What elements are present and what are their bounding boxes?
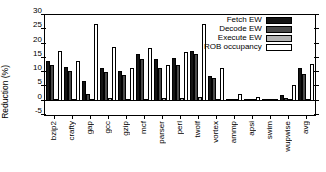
x-axis-tick-label: vortex [212, 121, 220, 143]
y-axis-tick-right [314, 28, 319, 29]
x-axis-tick-label: crafty [68, 121, 76, 141]
y-axis-title: Reduction (%) [1, 65, 10, 119]
legend-item: Decode EW [204, 25, 292, 33]
x-axis-tick [54, 115, 55, 119]
legend-item: ROB occupancy [204, 43, 292, 51]
x-axis-tick-label: swim [266, 121, 274, 139]
y-axis-tick-right [314, 100, 319, 101]
y-axis-tick-right [314, 114, 319, 115]
x-axis-tick-label: apsi [248, 121, 256, 136]
x-axis-tick-label: gcc [104, 121, 112, 133]
x-axis-tick [144, 115, 145, 119]
y-axis-tick-right [314, 43, 319, 44]
x-axis-tick-label: wupwise [284, 121, 292, 152]
x-axis-tick [216, 115, 217, 119]
legend-item-label: ROB occupancy [204, 43, 262, 51]
y-axis-tick-right [314, 71, 319, 72]
x-axis-tick-label: bzip2 [50, 121, 58, 140]
x-axis-tick-label: gzip [122, 121, 130, 136]
y-axis-tick-right [314, 57, 319, 58]
bar [122, 75, 126, 101]
bar [212, 78, 216, 100]
x-axis-tick [108, 115, 109, 119]
x-axis-tick [90, 115, 91, 119]
x-axis-tick [162, 115, 163, 119]
x-axis-tick [306, 115, 307, 119]
bar [176, 65, 180, 101]
x-axis-tick-label: parser [158, 121, 166, 144]
bar [76, 61, 80, 100]
legend-swatch [266, 26, 292, 33]
bar [220, 68, 224, 101]
y-axis-tick-label: 15 [33, 50, 42, 58]
y-axis-tick-label: 25 [33, 21, 42, 29]
y-axis-tick-right [314, 85, 319, 86]
x-axis-tick [252, 115, 253, 119]
bar [158, 68, 162, 101]
bar-chart: Reduction (%) -5051015202530bzip2craftyg… [0, 0, 326, 172]
bar [166, 65, 170, 100]
y-axis-tick-label: 0 [38, 93, 42, 101]
legend-item: Fetch EW [204, 16, 292, 24]
bar [310, 64, 314, 101]
y-axis-tick-label: 10 [33, 64, 42, 72]
y-axis-tick-label: -5 [35, 107, 42, 115]
x-axis-tick [234, 115, 235, 119]
bar [148, 48, 152, 100]
x-axis-tick [126, 115, 127, 119]
bar [58, 51, 62, 100]
bar [194, 54, 198, 101]
x-axis-tick-label: twolf [194, 121, 202, 137]
bar [94, 24, 98, 101]
bar [104, 72, 108, 101]
x-axis-tick-label: avg [302, 121, 310, 134]
x-axis-tick [270, 115, 271, 119]
x-axis-tick [198, 115, 199, 119]
legend-item: Execute EW [204, 34, 292, 42]
x-axis-tick-label: ammp [230, 121, 238, 143]
bar [140, 59, 144, 100]
legend-item-label: Fetch EW [227, 16, 262, 24]
y-axis-tick-label: 30 [33, 7, 42, 15]
bar [256, 97, 260, 100]
bar [112, 47, 116, 101]
bar [68, 71, 72, 100]
legend-swatch [266, 44, 292, 51]
x-axis-tick [180, 115, 181, 119]
bar [302, 74, 306, 100]
legend-swatch [266, 35, 292, 42]
bar [130, 68, 134, 101]
bar [292, 85, 296, 100]
x-axis-tick-label: mcf [140, 121, 148, 134]
bar [238, 94, 242, 100]
bar [274, 99, 278, 101]
y-axis-tick-label: 5 [38, 78, 42, 86]
bar [184, 52, 188, 101]
y-axis-tick-right [314, 14, 319, 15]
bar [50, 65, 54, 101]
x-axis-tick [72, 115, 73, 119]
chart-legend: Fetch EWDecode EWExecute EWROB occupancy [204, 16, 292, 51]
legend-swatch [266, 17, 292, 24]
x-axis-tick-label: perl [176, 121, 184, 134]
y-axis-tick-label: 20 [33, 36, 42, 44]
x-axis-tick-label: gap [86, 121, 94, 134]
legend-item-label: Decode EW [219, 25, 262, 33]
legend-item-label: Execute EW [218, 34, 262, 42]
x-axis-tick [288, 115, 289, 119]
